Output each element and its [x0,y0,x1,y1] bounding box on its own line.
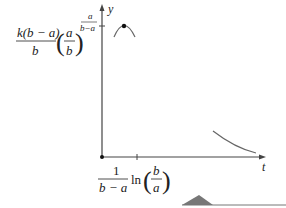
curve-tail-segment [213,131,256,153]
svg-text:a: a [88,11,93,21]
svg-text:1: 1 [113,163,120,178]
y-tick-label: k(b − a) b ( a b ) a b−a [16,11,97,58]
svg-text:ln: ln [131,172,142,187]
graph-canvas: y t k(b − a) b ( a b ) a b−a 1 b − a ln … [0,0,286,208]
svg-text:a: a [153,180,160,195]
svg-text:k(b − a): k(b − a) [17,25,60,40]
x-axis-label: t [262,160,266,174]
triangle-shape [182,195,213,205]
svg-text:b: b [66,43,73,58]
svg-text:b−a: b−a [80,23,96,33]
x-tick-label: 1 b − a ln ( b a ) [98,163,171,195]
svg-text:a: a [66,25,73,40]
y-axis-arrow-icon [100,4,105,11]
x-axis-arrow-icon [259,155,266,160]
max-point [122,24,126,28]
y-axis-label: y [107,2,114,16]
svg-text:(: ( [143,166,152,195]
svg-text:(: ( [56,28,65,57]
svg-text:b: b [32,43,39,58]
svg-text:): ) [162,166,171,195]
svg-text:b: b [153,163,160,178]
origin-point [100,155,104,159]
svg-text:b − a: b − a [99,180,128,195]
